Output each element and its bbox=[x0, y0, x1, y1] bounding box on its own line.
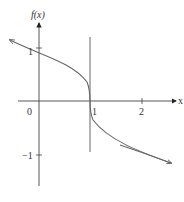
x-axis-label: x bbox=[178, 95, 183, 106]
function-curve bbox=[10, 40, 171, 163]
y-tick-label-minus1: −1 bbox=[22, 150, 33, 161]
function-graph: f(x) x 0 1 2 1 −1 bbox=[0, 0, 184, 202]
y-tick-label-1: 1 bbox=[28, 46, 33, 57]
x-tick-label-2: 2 bbox=[139, 106, 144, 117]
origin-label: 0 bbox=[27, 106, 32, 117]
y-axis-label: f(x) bbox=[31, 9, 46, 21]
x-tick-label-1: 1 bbox=[92, 106, 97, 117]
